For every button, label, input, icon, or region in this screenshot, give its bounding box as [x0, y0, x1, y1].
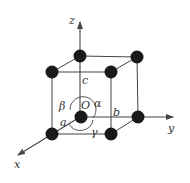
angle-label-gamma: γ — [91, 126, 98, 139]
edge-label-a: a — [60, 116, 67, 129]
edge-label-c: c — [82, 74, 88, 87]
edge-label-b: b — [113, 106, 120, 119]
unit-cell-diagram: z y x c b a O α β γ — [0, 0, 190, 183]
origin-label: O — [81, 99, 90, 112]
atom-top-front-right — [105, 66, 118, 79]
angle-label-alpha: α — [94, 97, 102, 110]
atom-top-front-left — [46, 66, 59, 79]
atom-bottom-front-left — [46, 128, 59, 141]
x-axis-label: x — [14, 158, 21, 171]
atom-bottom-front-right — [105, 128, 118, 141]
atom-bottom-back-right — [132, 111, 145, 124]
atom-origin — [75, 111, 88, 124]
z-axis-label: z — [68, 14, 75, 27]
atom-top-back-left — [74, 50, 87, 63]
angle-label-beta: β — [58, 100, 65, 113]
unit-cell-svg: z y x c b a O α β γ — [0, 0, 190, 183]
y-axis-label: y — [167, 122, 175, 135]
atom-top-back-right — [131, 51, 144, 64]
